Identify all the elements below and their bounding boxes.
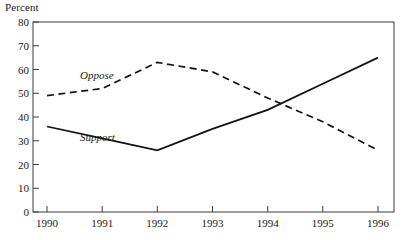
x-tick-label-1990: 1990 xyxy=(36,217,59,229)
chart-svg: 80 70 60 50 40 30 20 10 0 1990 1991 1992… xyxy=(0,0,409,240)
y-tick-label-40: 40 xyxy=(18,111,30,123)
line-chart-figure: Percent 80 70 60 50 40 30 20 10 0 xyxy=(0,0,409,240)
x-tick-label-1992: 1992 xyxy=(146,217,168,229)
x-tick-marks xyxy=(47,206,378,212)
x-tick-label-1994: 1994 xyxy=(257,217,280,229)
x-tick-label-1991: 1991 xyxy=(91,217,113,229)
x-tick-label-1993: 1993 xyxy=(202,217,225,229)
y-tick-label-80: 80 xyxy=(18,16,30,28)
y-tick-label-0: 0 xyxy=(24,206,30,218)
y-tick-label-30: 30 xyxy=(18,135,30,147)
series-label-support: Support xyxy=(80,131,116,143)
y-tick-label-70: 70 xyxy=(18,40,30,52)
y-tick-label-60: 60 xyxy=(18,64,30,76)
x-tick-label-1995: 1995 xyxy=(312,217,335,229)
y-tick-marks xyxy=(33,22,39,212)
y-tick-label-50: 50 xyxy=(18,87,30,99)
y-tick-labels: 80 70 60 50 40 30 20 10 0 xyxy=(18,16,30,218)
series-label-oppose: Oppose xyxy=(80,69,114,81)
y-tick-label-20: 20 xyxy=(18,159,30,171)
y-tick-label-10: 10 xyxy=(18,182,30,194)
x-tick-label-1996: 1996 xyxy=(367,217,390,229)
plot-frame xyxy=(33,22,394,212)
x-tick-labels: 1990 1991 1992 1993 1994 1995 1996 xyxy=(36,217,390,229)
